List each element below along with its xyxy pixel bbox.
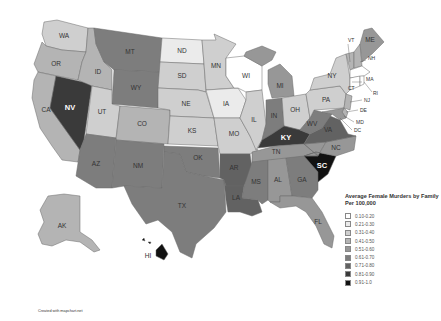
- state-label-ms: MS: [251, 178, 261, 185]
- state-label-ar: AR: [229, 164, 238, 171]
- legend-label: 0.51-0.60: [355, 247, 374, 252]
- legend-label: 0.10-0.20: [355, 214, 374, 219]
- state-label-ny: NY: [327, 72, 337, 79]
- state-label-ut: UT: [98, 108, 107, 115]
- legend-label: 0.21-0.30: [355, 222, 374, 227]
- state-label-az: AZ: [92, 160, 100, 167]
- state-label-in: IN: [271, 112, 278, 119]
- state-label-nm: NM: [133, 162, 143, 169]
- state-AK[interactable]: [38, 194, 100, 252]
- state-label-mn: MN: [211, 62, 221, 69]
- legend-row: 0.10-0.20: [345, 212, 441, 220]
- legend-swatch: [345, 213, 351, 219]
- state-label-oh: OH: [290, 106, 300, 113]
- legend-swatch: [345, 271, 351, 277]
- legend-label: 0.81-0.90: [355, 272, 374, 277]
- state-label-nh: NH: [368, 55, 376, 61]
- legend-label: 0.91-1.0: [355, 280, 372, 285]
- state-label-fl: FL: [314, 218, 322, 225]
- state-label-sc: SC: [317, 161, 328, 170]
- state-label-wa: WA: [59, 32, 70, 39]
- state-label-md: MD: [356, 119, 364, 125]
- state-label-dc: DC: [354, 127, 362, 133]
- state-label-la: LA: [232, 194, 241, 201]
- legend-swatch: [345, 280, 351, 286]
- state-label-ky: KY: [281, 133, 291, 142]
- legend-label: 0.61-0.70: [355, 255, 374, 260]
- state-label-nv: NV: [65, 103, 75, 112]
- state-label-or: OR: [51, 60, 61, 67]
- state-label-de: DE: [360, 107, 368, 113]
- legend-title: Average Female Murders by Family Per 100…: [345, 193, 441, 207]
- legend-row: 0.21-0.30: [345, 220, 441, 228]
- state-label-ga: GA: [297, 176, 307, 183]
- state-label-tx: TX: [178, 202, 187, 209]
- legend-swatch: [345, 255, 351, 261]
- state-label-al: AL: [274, 176, 282, 183]
- state-FL[interactable]: [270, 196, 334, 248]
- legend-rows: 0.10-0.20 0.21-0.30 0.31-0.40 0.41-0.50 …: [345, 212, 441, 287]
- legend-row: 0.61-0.70: [345, 253, 441, 261]
- legend-swatch: [345, 263, 351, 269]
- legend-label: 0.71-0.80: [355, 263, 374, 268]
- legend-swatch: [345, 246, 351, 252]
- state-label-id: ID: [95, 68, 102, 75]
- state-label-ct: CT: [348, 85, 355, 91]
- state-label-wi: WI: [242, 72, 250, 79]
- legend-row: 0.81-0.90: [345, 270, 441, 278]
- legend-row: 0.71-0.80: [345, 262, 441, 270]
- state-label-ia: IA: [223, 100, 230, 107]
- state-label-me: ME: [365, 36, 375, 43]
- state-label-ca: CA: [41, 106, 51, 113]
- legend: Average Female Murders by Family Per 100…: [345, 193, 441, 287]
- state-label-co: CO: [137, 120, 147, 127]
- state-label-ri: RI: [373, 90, 378, 96]
- legend-label: 0.41-0.50: [355, 239, 374, 244]
- state-label-ks: KS: [188, 127, 197, 134]
- state-label-ak: AK: [58, 222, 67, 229]
- state-label-tn: TN: [272, 148, 281, 155]
- state-label-mt: MT: [125, 48, 134, 55]
- legend-row: 0.41-0.50: [345, 237, 441, 245]
- state-RI[interactable]: [360, 76, 364, 86]
- state-label-nd: ND: [177, 47, 187, 54]
- state-label-nj: NJ: [364, 97, 371, 103]
- legend-row: 0.91-1.0: [345, 278, 441, 286]
- state-label-ne: NE: [181, 100, 191, 107]
- state-label-pa: PA: [322, 96, 331, 103]
- state-label-va: VA: [324, 126, 333, 133]
- legend-row: 0.31-0.40: [345, 229, 441, 237]
- state-label-ok: OK: [193, 154, 203, 161]
- legend-label: 0.31-0.40: [355, 230, 374, 235]
- legend-swatch: [345, 230, 351, 236]
- state-label-vt: VT: [348, 37, 354, 43]
- state-label-nc: NC: [331, 144, 341, 151]
- legend-swatch: [345, 238, 351, 244]
- state-label-ma: MA: [366, 76, 374, 82]
- legend-swatch: [345, 221, 351, 227]
- state-label-mi: MI: [276, 82, 283, 89]
- legend-row: 0.51-0.60: [345, 245, 441, 253]
- state-label-sd: SD: [177, 72, 186, 79]
- state-label-hi: HI: [145, 252, 152, 259]
- state-label-il: IL: [251, 116, 257, 123]
- state-label-wv: WV: [307, 120, 318, 127]
- state-label-mo: MO: [229, 130, 239, 137]
- credit-text: Created with mapchart.net: [38, 309, 83, 313]
- state-label-wy: WY: [131, 84, 142, 91]
